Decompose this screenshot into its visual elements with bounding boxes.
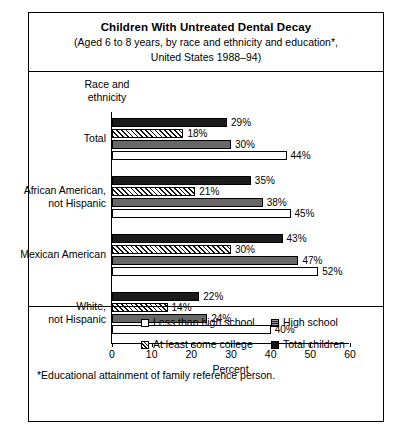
chart-page: Children With Untreated Dental Decay (Ag… bbox=[0, 0, 412, 435]
legend-swatch-total-children bbox=[271, 341, 279, 349]
y-axis-title-line1: Race and bbox=[65, 78, 149, 91]
bar-group: Mexican American43%30%47%52% bbox=[112, 234, 349, 276]
category-label-line: African American, bbox=[0, 184, 106, 197]
bar-row: 43% bbox=[112, 234, 349, 243]
bar-total bbox=[112, 176, 251, 185]
bar-row: 21% bbox=[112, 187, 349, 196]
category-label: Mexican American bbox=[0, 248, 106, 261]
legend-swatch-less-than-high-school bbox=[141, 319, 149, 327]
bar-value-label: 29% bbox=[231, 116, 251, 129]
bar-row: 44% bbox=[112, 151, 349, 160]
bar-row: 45% bbox=[112, 209, 349, 218]
bar-lessthan bbox=[112, 209, 291, 218]
footnote: *Educational attainment of family refere… bbox=[37, 369, 275, 382]
bar-row: 18% bbox=[112, 129, 349, 138]
bar-highschool bbox=[112, 256, 298, 265]
bar-row: 38% bbox=[112, 198, 349, 207]
legend-swatch-at-least-some-college bbox=[141, 341, 149, 349]
bar-value-label: 22% bbox=[203, 290, 223, 303]
bar-group: African American,not Hispanic35%21%38%45… bbox=[112, 176, 349, 218]
title-block: Children With Untreated Dental Decay (Ag… bbox=[29, 13, 383, 72]
y-axis-title-line2: ethnicity bbox=[65, 91, 149, 104]
bar-row: 30% bbox=[112, 140, 349, 149]
chart-frame: Children With Untreated Dental Decay (Ag… bbox=[28, 12, 384, 422]
legend-label-less-than-high-school: Less than high school bbox=[153, 316, 255, 329]
chart-subtitle-line1: (Aged 6 to 8 years, by race and ethnicit… bbox=[37, 36, 375, 49]
legend-item-high-school: High school bbox=[271, 316, 345, 329]
legend-item-less-than-high-school: Less than high school bbox=[141, 316, 255, 329]
legend-item-total-children: Total children bbox=[271, 338, 345, 351]
bar-value-label: 21% bbox=[199, 185, 219, 198]
legend-column-right: High school Total children bbox=[271, 316, 345, 360]
bar-value-label: 35% bbox=[255, 174, 275, 187]
bar-college bbox=[112, 129, 183, 138]
bar-value-label: 38% bbox=[267, 196, 287, 209]
category-label-line: not Hispanic bbox=[0, 197, 106, 210]
bar-value-label: 18% bbox=[187, 127, 207, 140]
legend-label-at-least-some-college: At least some college bbox=[153, 338, 253, 351]
legend-item-at-least-some-college: At least some college bbox=[141, 338, 255, 351]
bar-highschool bbox=[112, 198, 263, 207]
y-axis-title: Race and ethnicity bbox=[65, 78, 149, 104]
legend-label-high-school: High school bbox=[283, 316, 338, 329]
chart-title: Children With Untreated Dental Decay bbox=[37, 20, 375, 34]
category-label-line: Total bbox=[0, 132, 106, 145]
bar-group: Total29%18%30%44% bbox=[112, 118, 349, 160]
bar-value-label: 43% bbox=[287, 232, 307, 245]
bar-value-label: 52% bbox=[322, 265, 342, 278]
bar-total bbox=[112, 118, 227, 127]
bar-highschool bbox=[112, 140, 231, 149]
bar-row: 29% bbox=[112, 118, 349, 127]
bar-college bbox=[112, 245, 231, 254]
bar-value-label: 30% bbox=[235, 243, 255, 256]
legend-label-total-children: Total children bbox=[283, 338, 345, 351]
bar-lessthan bbox=[112, 267, 318, 276]
bar-total bbox=[112, 234, 283, 243]
bar-college bbox=[112, 187, 195, 196]
bar-value-label: 47% bbox=[302, 254, 322, 267]
chart-subtitle-line2: United States 1988–94) bbox=[37, 51, 375, 64]
category-label: Total bbox=[0, 132, 106, 145]
bar-row: 52% bbox=[112, 267, 349, 276]
bar-row: 35% bbox=[112, 176, 349, 185]
category-label: African American,not Hispanic bbox=[0, 184, 106, 210]
bar-row: 22% bbox=[112, 292, 349, 301]
category-label-line: Mexican American bbox=[0, 248, 106, 261]
legend-column-left: Less than high school At least some coll… bbox=[141, 316, 255, 360]
bar-row: 47% bbox=[112, 256, 349, 265]
legend-swatch-high-school bbox=[271, 319, 279, 327]
bar-value-label: 45% bbox=[295, 207, 315, 220]
bar-value-label: 44% bbox=[291, 149, 311, 162]
bar-lessthan bbox=[112, 151, 287, 160]
legend: Less than high school At least some coll… bbox=[29, 306, 383, 362]
bar-total bbox=[112, 292, 199, 301]
bar-row: 30% bbox=[112, 245, 349, 254]
bar-value-label: 30% bbox=[235, 138, 255, 151]
